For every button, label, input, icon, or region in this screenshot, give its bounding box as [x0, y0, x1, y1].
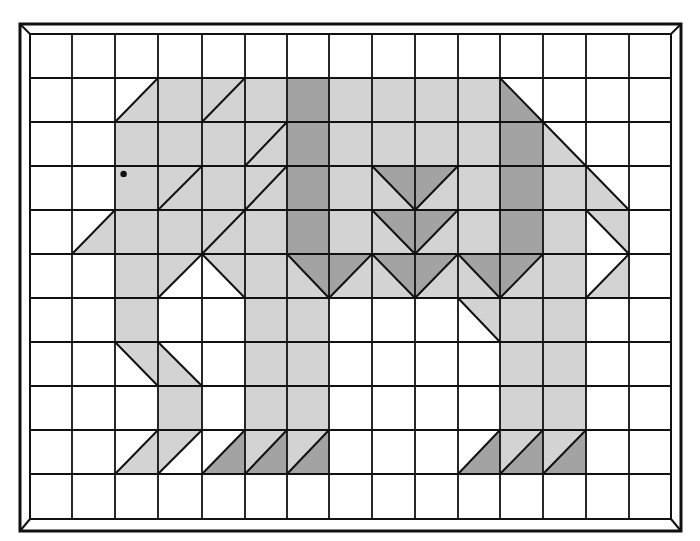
mosaic-tile	[202, 166, 245, 210]
mosaic-tile	[543, 166, 586, 210]
mosaic-tile	[287, 342, 329, 386]
eye-dot-icon	[120, 171, 126, 177]
mosaic-tile	[500, 166, 543, 210]
mosaic-tile	[415, 78, 458, 122]
mosaic-tile	[287, 210, 329, 254]
mosaic-tile	[543, 298, 586, 342]
mosaic-tile	[500, 210, 543, 254]
mosaic-tile	[245, 210, 287, 254]
mosaic-tile	[115, 298, 158, 342]
mosaic-tile	[245, 342, 287, 386]
mosaic-tile	[115, 254, 158, 298]
mosaic-tile	[543, 342, 586, 386]
mosaic-tile	[458, 78, 500, 122]
mosaic-tile	[372, 78, 415, 122]
mosaic-tile	[115, 122, 158, 166]
mosaic-tile	[329, 210, 372, 254]
mosaic-tile	[500, 342, 543, 386]
mosaic-tile	[500, 298, 543, 342]
mosaic-tile	[500, 122, 543, 166]
mosaic-tile	[329, 166, 372, 210]
mosaic-tile	[245, 78, 287, 122]
mosaic-tile	[245, 298, 287, 342]
mosaic-tile	[245, 386, 287, 430]
mosaic-tile	[500, 386, 543, 430]
mosaic-tile	[158, 122, 202, 166]
mosaic-tile	[158, 386, 202, 430]
mosaic-tile	[287, 122, 329, 166]
mosaic-tile	[458, 210, 500, 254]
mosaic-tile	[415, 122, 458, 166]
mosaic-tile	[329, 122, 372, 166]
elephant-mosaic-figure	[0, 0, 700, 541]
mosaic-tile	[287, 166, 329, 210]
mosaic-tile	[158, 78, 202, 122]
elephant-eye	[120, 171, 126, 177]
mosaic-tile	[287, 78, 329, 122]
mosaic-tile	[543, 254, 586, 298]
mosaic-tile	[287, 386, 329, 430]
mosaic-svg	[0, 0, 700, 541]
mosaic-tile	[543, 386, 586, 430]
mosaic-tile	[329, 78, 372, 122]
mosaic-tile	[245, 254, 287, 298]
mosaic-tile	[287, 298, 329, 342]
mosaic-tile	[543, 210, 586, 254]
mosaic-tile	[202, 122, 245, 166]
mosaic-tile	[458, 122, 500, 166]
mosaic-tile	[115, 210, 158, 254]
mosaic-tile	[158, 210, 202, 254]
mosaic-tile	[372, 122, 415, 166]
mosaic-tile	[458, 166, 500, 210]
